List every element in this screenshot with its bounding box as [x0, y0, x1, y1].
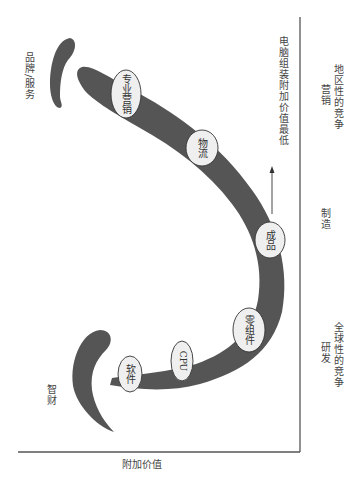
x-section-manufacturing-title: 制造	[318, 208, 331, 230]
annotation-text: 电脑组装附加价值最低	[276, 36, 289, 146]
brand-service-label: 品牌/服务	[22, 52, 35, 100]
y-axis-label: 附加价值	[122, 458, 162, 471]
x-section-marketing-title: 营销	[318, 84, 331, 106]
annotation-arrow-head	[270, 166, 275, 173]
ip-end-shape	[72, 330, 114, 432]
node-label-marketing: 专业营销	[121, 74, 132, 114]
x-section-rd-subtitle: 全球性的竞争	[331, 322, 344, 388]
x-section-rd-title: 研发	[318, 342, 331, 364]
node-label-logistics: 物流	[197, 138, 208, 158]
ip-label: 智财	[44, 384, 57, 406]
node-label-cpu: CPU	[177, 351, 188, 371]
node-label-components: 零组件	[244, 315, 255, 345]
brand-end-shape	[50, 38, 75, 108]
node-label-software: 软件	[125, 364, 136, 384]
x-section-marketing-subtitle: 地区性的竞争	[331, 64, 344, 130]
node-label-product: 成品	[265, 230, 276, 250]
